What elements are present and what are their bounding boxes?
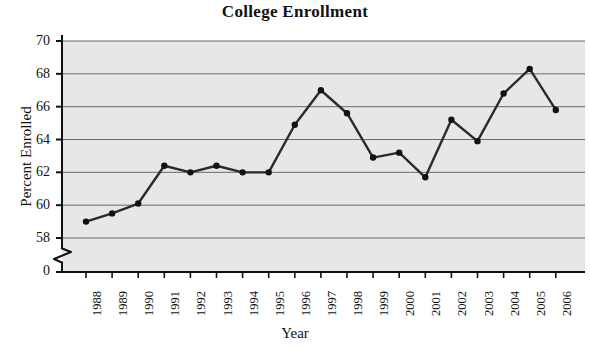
chart-figure: College Enrollment Percent Enrolled Year… xyxy=(0,0,590,351)
plot-background xyxy=(62,41,585,272)
plot-area xyxy=(0,0,590,351)
